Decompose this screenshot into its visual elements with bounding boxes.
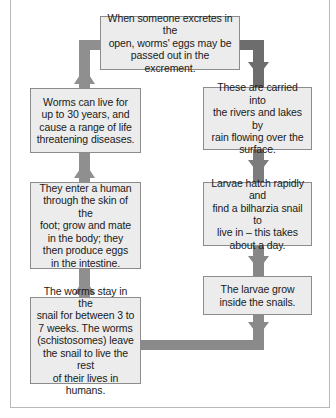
step-enter: They enter a human through the skin of t… [30, 182, 141, 269]
step-text: The larvae grow inside the snails. [220, 283, 296, 308]
step-stay: The worms stay in the snail for between … [30, 297, 141, 384]
step-excrete: When someone excretes in the open, worms… [100, 16, 240, 70]
step-text: Worms can live for up to 30 years, and c… [37, 96, 135, 146]
step-carried: These are carried into the rivers and la… [203, 87, 312, 150]
step-text: Larvae hatch rapidly and find a bilharzi… [209, 177, 306, 251]
arrow-live-to-excrete [74, 40, 100, 88]
step-text: When someone excretes in the open, worms… [106, 12, 234, 74]
step-text: These are carried into the rivers and la… [209, 81, 306, 155]
step-grow: The larvae grow inside the snails. [203, 276, 312, 315]
step-text: They enter a human through the skin of t… [36, 182, 135, 269]
step-live: Worms can live for up to 30 years, and c… [30, 88, 141, 153]
step-text: The worms stay in the snail for between … [36, 285, 135, 397]
arrow-grow-to-stay [140, 314, 269, 350]
step-hatch: Larvae hatch rapidly and find a bilharzi… [203, 182, 312, 246]
arrow-excrete-to-carried [239, 40, 269, 87]
arrow-enter-to-live [74, 152, 95, 182]
